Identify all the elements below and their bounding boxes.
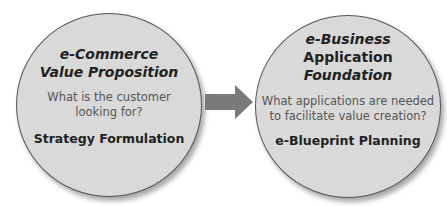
right-question-line1: What applications are needed [256, 94, 440, 109]
right-title-line1: e-Business [256, 31, 440, 48]
left-title-line2: Value Proposition [17, 64, 201, 81]
value-proposition-circle: e-Commerce Value Proposition What is the… [16, 13, 202, 197]
application-foundation-circle: e-Business Application Foundation What a… [255, 15, 441, 198]
left-question-line1: What is the customer [17, 90, 201, 105]
right-subtitle: e-Blueprint Planning [256, 133, 440, 148]
left-subtitle: Strategy Formulation [17, 131, 201, 146]
right-question-line2: to facilitate value creation? [256, 109, 440, 124]
left-question-line2: looking for? [17, 105, 201, 120]
right-title-line2: Application [256, 49, 440, 66]
right-arrow-icon [205, 85, 255, 119]
right-title-line3: Foundation [256, 67, 440, 84]
left-title-line1: e-Commerce [17, 46, 201, 63]
